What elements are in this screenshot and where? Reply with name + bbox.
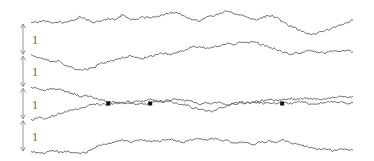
- random-walks-diagram: 1111: [0, 0, 374, 161]
- walk-path-2: [31, 42, 353, 71]
- spacing-label: 1: [32, 130, 38, 144]
- spacing-arrow: [21, 24, 26, 54]
- spacing-arrows: [21, 24, 26, 151]
- spacing-arrow: [21, 56, 26, 86]
- spacing-arrow: [21, 89, 26, 119]
- walk-path-5: [31, 138, 353, 154]
- meeting-point-marker: [106, 102, 110, 106]
- walk-paths: [31, 11, 353, 154]
- spacing-label: 1: [32, 65, 38, 79]
- spacing-label: 1: [32, 98, 38, 112]
- walk-path-1: [31, 11, 353, 35]
- spacing-label: 1: [32, 33, 38, 47]
- spacing-arrow: [21, 121, 26, 151]
- meeting-point-marker: [280, 102, 284, 106]
- meeting-point-marker: [148, 102, 152, 106]
